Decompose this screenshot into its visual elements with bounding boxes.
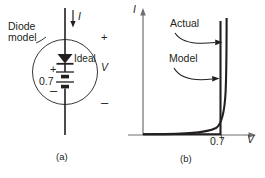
figure-container: Diode model Ideal + 0.7 – I + V – (a) I … (0, 0, 265, 178)
ideal-label: Ideal (74, 54, 96, 65)
diode-model-leader-line (36, 37, 46, 43)
current-label-a: I (78, 11, 81, 22)
panel-b-caption: (b) (180, 154, 192, 164)
battery-icon (56, 72, 74, 87)
curve-model (143, 21, 221, 134)
model-leader-arrow (174, 68, 220, 82)
actual-leader-arrow (175, 33, 223, 45)
battery-minus-sign: – (50, 84, 57, 98)
model-curve-annotation: Model (169, 53, 198, 64)
x-tick-label: 0.7 (210, 136, 225, 147)
battery-plus-sign: + (50, 64, 56, 76)
terminal-minus-sign: – (101, 96, 108, 110)
terminal-plus-sign: + (101, 32, 107, 44)
diode-model-annotation: Diode model (8, 21, 37, 43)
x-axis-label: V (247, 134, 254, 145)
panel-a-caption: (a) (56, 152, 68, 162)
ideal-diode-icon (57, 54, 74, 64)
current-arrow-icon (70, 10, 75, 28)
curve-actual (143, 18, 227, 134)
y-axis-label: I (133, 4, 136, 15)
actual-curve-annotation: Actual (170, 18, 199, 29)
terminal-voltage-label: V (101, 62, 108, 73)
figure-vector-layer (0, 0, 265, 178)
y-axis (140, 8, 146, 135)
